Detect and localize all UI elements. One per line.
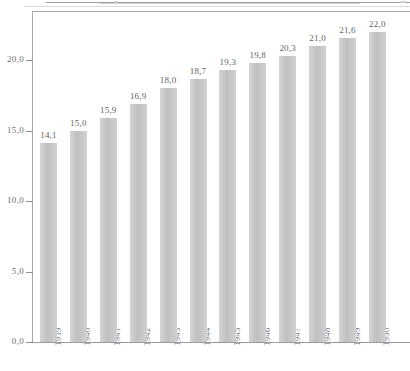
y-axis-tick [26, 131, 33, 132]
y-axis-tick-label-text: 5,0 [12, 266, 24, 276]
y-axis-tick-label-text: 15,0 [7, 125, 24, 135]
plot-top-border [32, 11, 410, 12]
y-axis-tick-label: 15,0 [0, 125, 24, 135]
bar [190, 79, 207, 342]
bar [130, 104, 147, 342]
bar [369, 32, 386, 342]
bar-value-label: 19,8 [250, 50, 267, 60]
scan-rule-secondary [25, 6, 410, 7]
bar [100, 118, 117, 342]
bar [279, 56, 296, 342]
y-axis-tick-label-text: 20,0 [7, 54, 24, 64]
y-axis-tick [26, 60, 33, 61]
bar [219, 70, 236, 342]
bar-chart: 0,05,010,015,020,0 193919401941194219431… [0, 0, 410, 371]
bar-value-label: 22,0 [369, 19, 386, 29]
y-axis-tick-label: 20,0 [0, 54, 24, 64]
bar-value-label: 21,6 [339, 25, 356, 35]
bar-value-label: 18,7 [190, 66, 207, 76]
bar-value-label: 14,1 [40, 130, 57, 140]
bar-value-label: 16,9 [130, 91, 147, 101]
y-axis-tick-label: 10,0 [0, 195, 24, 205]
bar [40, 143, 57, 342]
bar-value-label: 21,0 [309, 33, 326, 43]
bar [70, 131, 87, 342]
bar [309, 46, 326, 342]
bar [160, 88, 177, 342]
bar-value-label: 18,0 [160, 75, 177, 85]
bar [249, 63, 266, 342]
y-axis-tick [26, 342, 33, 343]
y-axis-tick-label: 0,0 [0, 336, 24, 346]
bar-value-label: 20,3 [279, 43, 296, 53]
y-axis-tick-label: 5,0 [0, 266, 24, 276]
bar-value-label: 19,3 [220, 57, 237, 67]
scan-speck [400, 1, 406, 3]
y-axis-tick-label-text: 10,0 [7, 195, 24, 205]
bar [339, 38, 356, 342]
y-axis-tick-label-text: 0,0 [12, 336, 24, 346]
y-axis-tick [26, 201, 33, 202]
y-axis-tick [26, 272, 33, 273]
scan-rule-top-inner [100, 3, 360, 4]
bar-value-label: 15,0 [70, 118, 87, 128]
bar-value-label: 15,9 [100, 105, 117, 115]
scan-speck [114, 1, 119, 3]
